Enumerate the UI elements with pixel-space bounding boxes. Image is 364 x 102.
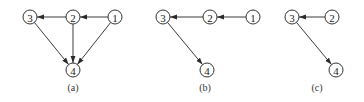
graph-c: 234(c): [285, 10, 343, 94]
node-label: 3: [289, 12, 295, 24]
node-label: 4: [204, 65, 210, 77]
edge-3-to-4: [296, 22, 331, 64]
node-2: 2: [325, 10, 339, 24]
node-3: 3: [285, 10, 299, 24]
node-label: 4: [70, 65, 76, 77]
graph-a: 1234(a): [23, 10, 122, 94]
node-label: 2: [329, 12, 335, 24]
graph-caption: (c): [311, 82, 322, 94]
node-2: 2: [66, 10, 80, 24]
node-4: 4: [200, 63, 214, 77]
node-1: 1: [108, 10, 122, 24]
node-3: 3: [23, 10, 37, 24]
node-4: 4: [329, 63, 343, 77]
graphs-layer: 1234(a)1234(b)234(c): [23, 10, 343, 94]
edge-3-to-4: [34, 22, 68, 64]
node-4: 4: [66, 63, 80, 77]
edge-3-to-4: [167, 22, 202, 64]
graph-caption: (a): [67, 82, 78, 94]
node-2: 2: [203, 10, 217, 24]
node-label: 1: [250, 12, 256, 24]
node-label: 4: [333, 65, 339, 77]
node-label: 1: [112, 12, 118, 24]
edge-1-to-4: [77, 22, 110, 64]
node-label: 2: [207, 12, 213, 24]
diagram-canvas: 1234(a)1234(b)234(c): [0, 0, 364, 102]
graph-b: 1234(b): [156, 10, 260, 94]
node-label: 3: [27, 12, 33, 24]
node-label: 3: [160, 12, 166, 24]
graph-caption: (b): [199, 82, 211, 94]
node-3: 3: [156, 10, 170, 24]
node-1: 1: [246, 10, 260, 24]
node-label: 2: [70, 12, 76, 24]
